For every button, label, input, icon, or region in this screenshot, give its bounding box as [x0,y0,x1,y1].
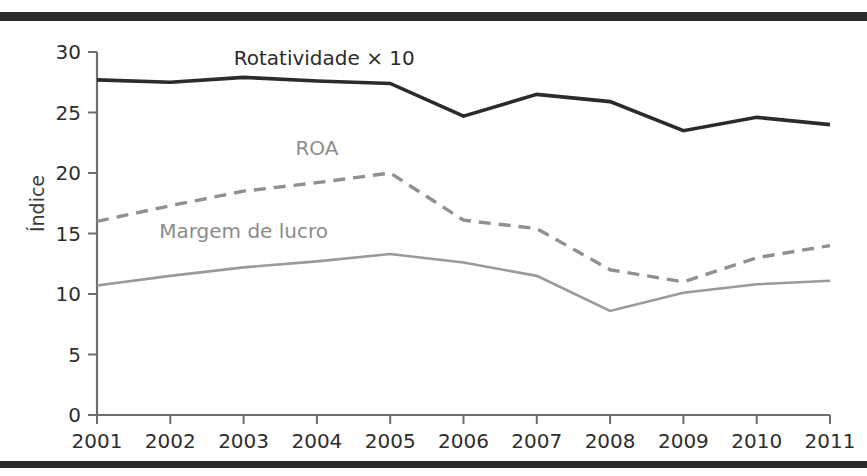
x-tick-label: 2002 [145,429,196,453]
series-label-margem-de-lucro: Margem de lucro [159,219,328,243]
y-tick-label: 20 [56,161,81,185]
x-tick-label: 2007 [511,429,562,453]
series-annotations: Rotatividade × 10ROAMargem de lucro [159,46,415,243]
x-tick-label: 2009 [658,429,709,453]
y-tick-labels: 051015202530 [56,40,81,427]
x-tick-label: 2004 [291,429,342,453]
x-tick-label: 2011 [805,429,856,453]
y-axis-title: Índice [26,175,48,232]
y-tick-label: 10 [56,282,81,306]
y-tick-label: 25 [56,101,81,125]
plot-area: 051015202530 200120022003200420052006200… [0,21,867,461]
x-tick-label: 2003 [218,429,269,453]
series-lines [97,77,830,311]
y-tick-label: 0 [68,403,81,427]
bottom-rule-divider [0,461,867,468]
y-tick-marks [88,52,97,415]
series-label-roa: ROA [295,136,338,160]
top-rule-divider [0,12,867,21]
x-tick-label: 2008 [585,429,636,453]
x-tick-label: 2001 [72,429,123,453]
x-tick-labels: 2001200220032004200520062007200820092010… [72,429,856,453]
series-line-rotatividade-10 [97,77,830,130]
y-tick-label: 15 [56,222,81,246]
line-chart: 051015202530 200120022003200420052006200… [0,21,867,461]
series-line-margem-de-lucro [97,254,830,311]
figure-container: 051015202530 200120022003200420052006200… [0,0,867,476]
series-label-rotatividade-10: Rotatividade × 10 [234,46,415,70]
y-tick-label: 30 [56,40,81,64]
y-tick-label: 5 [68,343,81,367]
x-tick-label: 2005 [365,429,416,453]
x-tick-label: 2006 [438,429,489,453]
x-tick-marks [97,415,830,424]
x-tick-label: 2010 [731,429,782,453]
